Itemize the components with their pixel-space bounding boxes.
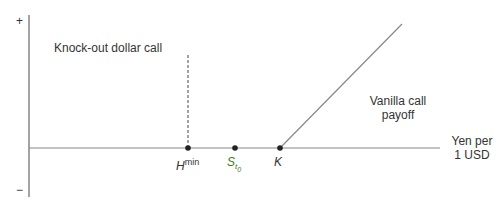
barrier-point bbox=[185, 145, 191, 151]
vanilla-payoff-line bbox=[280, 24, 402, 148]
y-minus-label: − bbox=[16, 183, 23, 197]
vanilla-label-line1: Vanilla call bbox=[358, 94, 438, 108]
spot-label-sub: t0 bbox=[235, 162, 241, 171]
spot-point bbox=[232, 145, 238, 151]
strike-label: K bbox=[274, 155, 282, 169]
strike-point bbox=[277, 145, 283, 151]
spot-label: St0 bbox=[227, 155, 241, 177]
barrier-label-sup: min bbox=[185, 157, 200, 167]
knockout-label: Knock-out dollar call bbox=[54, 41, 162, 55]
spot-label-base: S bbox=[227, 155, 235, 169]
vanilla-label-line2: payoff bbox=[358, 108, 438, 122]
vanilla-label: Vanilla call payoff bbox=[358, 94, 438, 122]
x-axis-label-line2: 1 USD bbox=[444, 148, 500, 162]
barrier-label: Hmin bbox=[176, 155, 199, 173]
y-plus-label: + bbox=[16, 14, 23, 28]
barrier-label-base: H bbox=[176, 159, 185, 173]
x-axis-label: Yen per 1 USD bbox=[444, 134, 500, 162]
x-axis-label-line1: Yen per bbox=[444, 134, 500, 148]
